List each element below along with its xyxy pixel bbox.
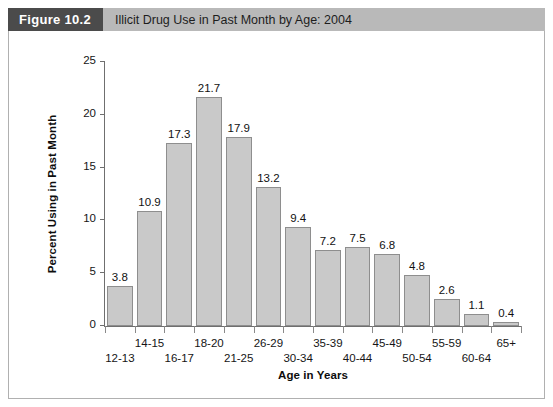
bar-group: 9.4 [283,62,313,326]
bar [256,187,282,326]
bar [315,250,341,326]
x-tick-mark [313,326,314,333]
x-tick-mark [105,326,106,333]
y-tick-label: 20 [83,107,96,119]
x-tick-label: 16-17 [165,352,194,364]
bar [493,322,519,326]
bar-group: 13.2 [254,62,284,326]
bar-value-label: 0.4 [498,307,514,319]
x-tick-mark [491,326,492,333]
x-tick-mark [462,326,463,333]
x-tick-mark [164,326,165,333]
y-tick-label: 0 [90,318,96,330]
bar [434,299,460,326]
bar [137,211,163,326]
figure-caption: Illicit Drug Use in Past Month by Age: 2… [103,8,352,31]
bar-group: 3.8 [105,62,135,326]
bar-value-label: 3.8 [112,271,128,283]
bar [107,286,133,326]
x-tick-label: 45-49 [373,337,402,349]
x-tick-mark [135,326,136,333]
figure-header: Figure 10.2 Illicit Drug Use in Past Mon… [8,8,545,31]
figure-number-tag: Figure 10.2 [8,8,103,31]
bar-group: 17.9 [224,62,254,326]
bar [285,227,311,326]
x-tick-mark [254,326,255,333]
x-tick-label: 21-25 [224,352,253,364]
bar-group: 4.8 [402,62,432,326]
y-tick-label: 25 [83,54,96,66]
x-tick-mark [283,326,284,333]
bar-value-label: 6.8 [379,239,395,251]
bar-value-label: 13.2 [257,172,279,184]
bar-value-label: 9.4 [290,212,306,224]
x-tick-label: 26-29 [254,337,283,349]
x-tick-mark [194,326,195,333]
x-tick-label: 50-54 [402,352,431,364]
bar-group: 7.2 [313,62,343,326]
bar-value-label: 4.8 [409,260,425,272]
bar-group: 2.6 [432,62,462,326]
bar-group: 0.4 [491,62,521,326]
y-tick-label: 15 [83,160,96,172]
bar-value-label: 7.5 [350,232,366,244]
figure-container: Figure 10.2 Illicit Drug Use in Past Mon… [0,0,553,407]
x-tick-label: 35-39 [313,337,342,349]
x-tick-mark [402,326,403,333]
bar-value-label: 1.1 [468,299,484,311]
bar-value-label: 2.6 [439,284,455,296]
x-tick-mark [372,326,373,333]
x-tick-label: 18-20 [194,337,223,349]
y-tick-label: 5 [90,265,96,277]
bar [374,254,400,326]
bar-value-label: 21.7 [198,82,220,94]
x-tick-label: 12-13 [105,352,134,364]
bar [404,275,430,326]
bar-value-label: 17.9 [227,122,249,134]
bar [464,314,490,326]
x-tick-label: 55-59 [432,337,461,349]
plot-area: 3.810.917.321.717.913.29.47.27.56.84.82.… [105,62,521,326]
y-axis-title: Percent Using in Past Month [44,62,60,326]
bar [196,97,222,326]
x-tick-label: 65+ [496,337,516,349]
y-tick-label: 10 [83,212,96,224]
bar-value-label: 10.9 [138,196,160,208]
bars-layer: 3.810.917.321.717.913.29.47.27.56.84.82.… [105,62,521,326]
bar-group: 21.7 [194,62,224,326]
bar [345,247,371,326]
bar-value-label: 17.3 [168,128,190,140]
x-tick-mark [224,326,225,333]
bar-group: 10.9 [135,62,165,326]
bar [166,143,192,326]
x-tick-label: 40-44 [343,352,372,364]
bar [226,137,252,326]
bar-value-label: 7.2 [320,235,336,247]
x-axis-title: Age in Years [105,369,521,381]
bar-group: 17.3 [164,62,194,326]
bar-group: 6.8 [372,62,402,326]
bar-group: 7.5 [343,62,373,326]
x-tick-mark [432,326,433,333]
x-tick-label: 14-15 [135,337,164,349]
x-tick-label: 60-64 [462,352,491,364]
x-tick-mark [521,326,522,333]
bar-group: 1.1 [462,62,492,326]
x-tick-mark [343,326,344,333]
x-tick-label: 30-34 [283,352,312,364]
